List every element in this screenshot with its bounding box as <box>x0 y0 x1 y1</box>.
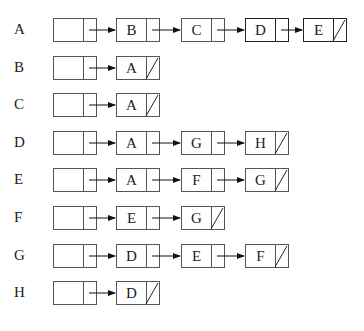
pointer-cell <box>274 19 288 41</box>
list-node: A <box>116 168 160 192</box>
node-data-cell: A <box>117 94 147 116</box>
list-row-b: BA <box>0 56 364 82</box>
pointer-cell <box>210 245 224 267</box>
vertex-label: B <box>14 59 24 76</box>
head-pointer-cell <box>82 132 96 154</box>
list-node: A <box>116 56 160 80</box>
head-data-cell <box>54 132 84 154</box>
null-pointer-icon <box>145 94 159 116</box>
list-row-f: FEG <box>0 206 364 232</box>
node-data-cell: D <box>117 245 147 267</box>
head-data-cell <box>54 57 84 79</box>
list-row-e: EAFG <box>0 168 364 194</box>
head-pointer-cell <box>82 94 96 116</box>
list-node: A <box>116 93 160 117</box>
list-node: A <box>116 131 160 155</box>
node-data-cell: H <box>246 132 276 154</box>
pointer-cell <box>145 169 159 191</box>
null-pointer-icon <box>145 57 159 79</box>
list-node: F <box>181 168 225 192</box>
node-data-cell: F <box>182 169 212 191</box>
vertex-label: F <box>14 209 22 226</box>
head-pointer-cell <box>82 245 96 267</box>
list-row-g: GDEF <box>0 244 364 270</box>
list-node: F <box>245 244 289 268</box>
list-node: E <box>303 18 347 42</box>
list-row-c: CA <box>0 93 364 119</box>
vertex-label: E <box>14 171 23 188</box>
node-data-cell: D <box>246 19 276 41</box>
pointer-cell <box>210 132 224 154</box>
node-data-cell: E <box>117 207 147 229</box>
pointer-cell <box>210 169 224 191</box>
node-data-cell: G <box>182 132 212 154</box>
head-data-cell <box>54 207 84 229</box>
node-data-cell: G <box>246 169 276 191</box>
node-data-cell: G <box>182 207 212 229</box>
node-data-cell: C <box>182 19 212 41</box>
null-pointer-icon <box>274 245 288 267</box>
list-node: B <box>116 18 160 42</box>
head-data-cell <box>54 245 84 267</box>
head-node <box>53 18 97 42</box>
pointer-cell <box>145 19 159 41</box>
vertex-label: H <box>14 284 25 301</box>
list-row-a: ABCDE <box>0 18 364 44</box>
head-data-cell <box>54 169 84 191</box>
head-pointer-cell <box>82 19 96 41</box>
list-row-d: DAGH <box>0 131 364 157</box>
head-data-cell <box>54 282 84 304</box>
list-node: D <box>245 18 289 42</box>
null-pointer-icon <box>145 282 159 304</box>
head-node <box>53 244 97 268</box>
list-node: E <box>181 244 225 268</box>
list-node: H <box>245 131 289 155</box>
pointer-cell <box>145 207 159 229</box>
list-node: G <box>181 131 225 155</box>
null-pointer-icon <box>274 132 288 154</box>
vertex-label: C <box>14 96 24 113</box>
head-pointer-cell <box>82 282 96 304</box>
head-node <box>53 206 97 230</box>
head-data-cell <box>54 94 84 116</box>
head-pointer-cell <box>82 57 96 79</box>
node-data-cell: E <box>182 245 212 267</box>
node-data-cell: E <box>304 19 334 41</box>
head-node <box>53 56 97 80</box>
head-node <box>53 131 97 155</box>
node-data-cell: D <box>117 282 147 304</box>
head-data-cell <box>54 19 84 41</box>
list-node: G <box>245 168 289 192</box>
null-pointer-icon <box>210 207 224 229</box>
list-node: E <box>116 206 160 230</box>
head-pointer-cell <box>82 207 96 229</box>
node-data-cell: B <box>117 19 147 41</box>
head-node <box>53 168 97 192</box>
node-data-cell: A <box>117 57 147 79</box>
vertex-label: A <box>14 21 25 38</box>
list-node: D <box>116 281 160 305</box>
pointer-cell <box>210 19 224 41</box>
node-data-cell: A <box>117 132 147 154</box>
node-data-cell: F <box>246 245 276 267</box>
pointer-cell <box>145 245 159 267</box>
list-node: G <box>181 206 225 230</box>
list-node: D <box>116 244 160 268</box>
head-node <box>53 93 97 117</box>
list-row-h: HD <box>0 281 364 307</box>
null-pointer-icon <box>274 169 288 191</box>
vertex-label: G <box>14 247 25 264</box>
pointer-cell <box>145 132 159 154</box>
list-node: C <box>181 18 225 42</box>
null-pointer-icon <box>332 19 346 41</box>
vertex-label: D <box>14 134 25 151</box>
head-pointer-cell <box>82 169 96 191</box>
node-data-cell: A <box>117 169 147 191</box>
head-node <box>53 281 97 305</box>
